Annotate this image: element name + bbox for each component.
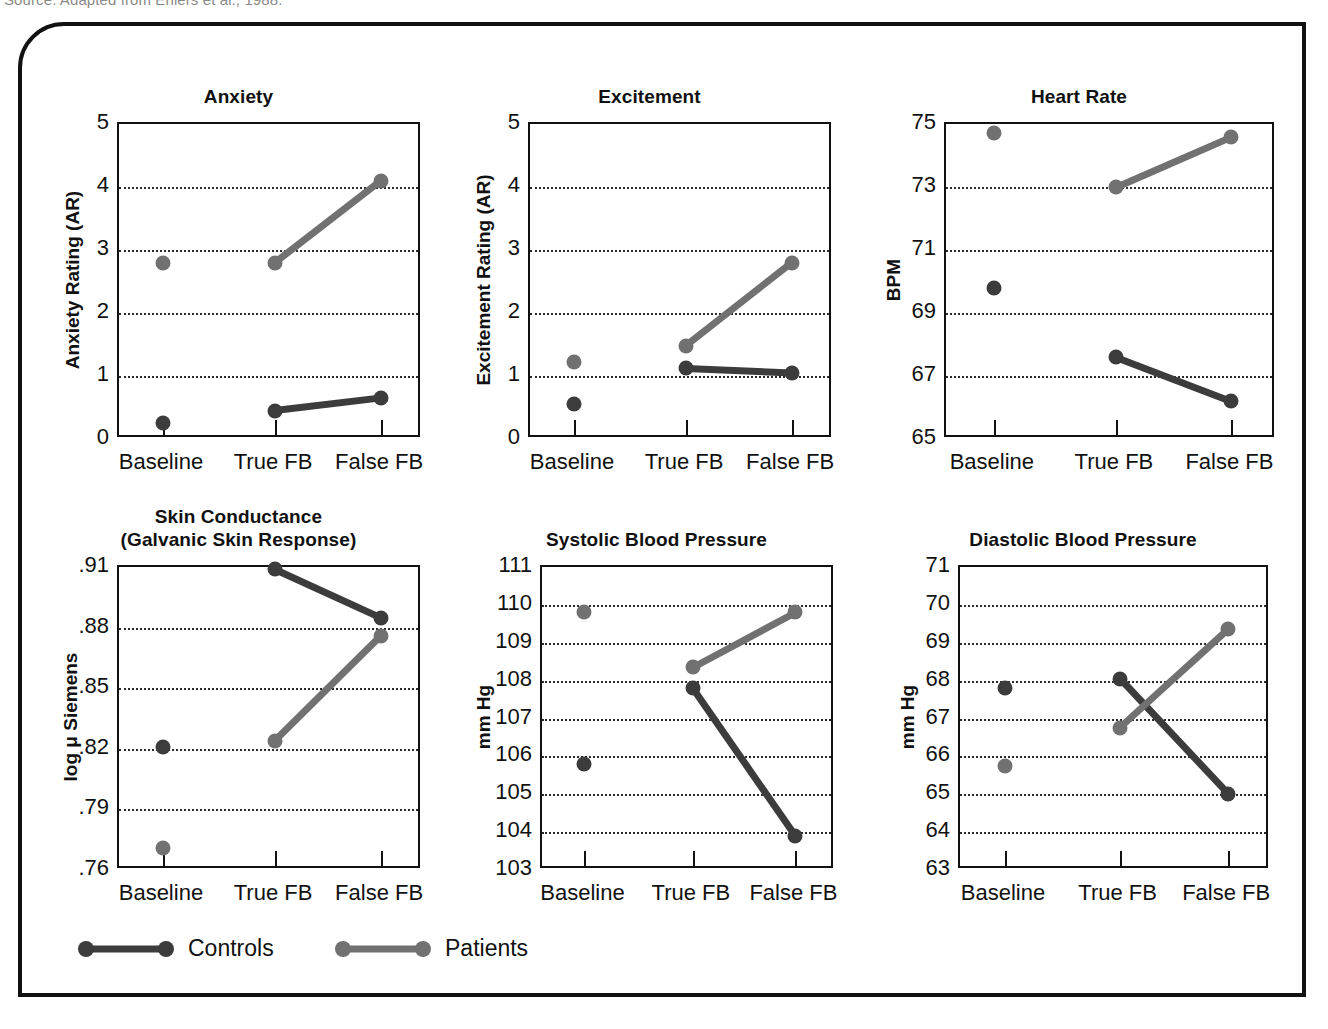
legend-entry: Patients	[335, 935, 528, 962]
legend-marker-dot	[78, 941, 94, 957]
legend-entry: Controls	[78, 935, 274, 962]
legend-line	[84, 945, 168, 952]
legend-marker-dot	[415, 941, 431, 957]
legend-marker-dot	[335, 941, 351, 957]
legend-label: Controls	[188, 935, 274, 962]
legend-marker-dot	[158, 941, 174, 957]
legend-swatch	[78, 939, 174, 959]
legend-swatch	[335, 939, 431, 959]
legend-label: Patients	[445, 935, 528, 962]
legend-line	[341, 945, 425, 952]
chart-legend: ControlsPatients	[0, 0, 1328, 1029]
